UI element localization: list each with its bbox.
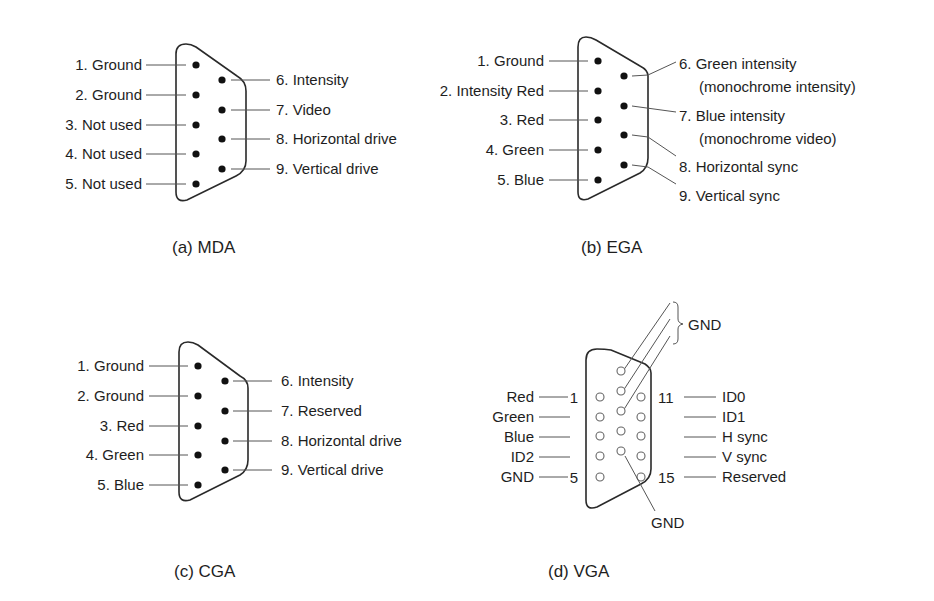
pin-4 (594, 146, 601, 153)
pin-label: 4. Green (486, 141, 544, 158)
pin-3 (192, 121, 199, 128)
pin-6 (221, 377, 228, 384)
pin-label: Blue (504, 428, 534, 445)
db9-shell-ega (578, 37, 648, 200)
pin-label: Reserved (722, 468, 786, 485)
pin-number-1: 1 (570, 389, 578, 406)
pin-label: 5. Blue (97, 476, 144, 493)
panel-mda: 1. Ground 2. Ground 3. Not used 4. Not u… (65, 44, 397, 257)
left-pins (192, 61, 225, 187)
pin-label: 9. Vertical drive (276, 160, 379, 177)
pin-label: 2. Ground (77, 387, 144, 404)
pin-label: 7. Reserved (281, 402, 362, 419)
caption-ega: (b) EGA (581, 238, 643, 257)
pin-9 (221, 466, 228, 473)
gnd-brace (673, 302, 683, 344)
pin-3 (596, 432, 604, 440)
pin-label: 3. Red (100, 417, 144, 434)
pin-label: 2. Intensity Red (440, 82, 544, 99)
pin-label: ID1 (722, 408, 745, 425)
pin-gnd-b (617, 387, 625, 395)
panel-cga: 1. Ground 2. Ground 3. Red 4. Green 5. B… (77, 342, 402, 581)
pin-label: 5. Not used (65, 175, 142, 192)
pin-7 (221, 407, 228, 414)
pin-1 (192, 61, 199, 68)
pin-12 (637, 413, 645, 421)
pin-8 (620, 131, 627, 138)
pin-label: 4. Green (86, 446, 144, 463)
caption-cga: (c) CGA (174, 562, 236, 581)
pin-2 (192, 91, 199, 98)
pin-label: 2. Ground (75, 86, 142, 103)
pin-label: GND (501, 468, 535, 485)
pin-5 (194, 481, 201, 488)
pin-label-note: (monochrome intensity) (699, 78, 856, 95)
pin-2 (594, 87, 601, 94)
caption-vga: (d) VGA (548, 562, 610, 581)
pin-label: 1. Ground (477, 52, 544, 69)
pin-2 (596, 413, 604, 421)
pin-label-note: (monochrome video) (699, 130, 837, 147)
pin-5 (192, 180, 199, 187)
db9-shell-cga (179, 342, 248, 501)
pin-8 (218, 135, 225, 142)
pin-label: Red (506, 388, 534, 405)
pin-9 (620, 161, 627, 168)
pin-8 (221, 437, 228, 444)
pin-label: 6. Intensity (281, 372, 354, 389)
pin-14 (637, 452, 645, 460)
pin-2 (194, 392, 201, 399)
pin-label: 9. Vertical sync (679, 187, 780, 204)
pin-label: ID0 (722, 388, 745, 405)
pin-label: 5. Blue (497, 171, 544, 188)
gnd-bottom-label: GND (651, 514, 685, 531)
pin-gnd-a (617, 367, 625, 375)
pin-label: 3. Red (500, 111, 544, 128)
pin-label: 1. Ground (75, 56, 142, 73)
panel-vga: GND GND 1 5 11 15 (492, 302, 786, 581)
pin-4 (194, 451, 201, 458)
pin-label: 7. Blue intensity (679, 107, 785, 124)
pin-7 (620, 102, 627, 109)
pin-label: 8. Horizontal drive (276, 130, 397, 147)
pin-label: Green (492, 408, 534, 425)
pin-label: 3. Not used (65, 116, 142, 133)
pin-5 (594, 176, 601, 183)
pin-11 (637, 393, 645, 401)
pin-1 (194, 362, 201, 369)
pin-3 (594, 116, 601, 123)
pin-label: H sync (722, 428, 768, 445)
pin-1 (594, 57, 601, 64)
pin-label: 8. Horizontal sync (679, 158, 799, 175)
pin-label: 1. Ground (77, 357, 144, 374)
pin-label: 6. Intensity (276, 71, 349, 88)
pin-13 (637, 432, 645, 440)
pin-6 (620, 72, 627, 79)
pin-1 (596, 393, 604, 401)
gnd-group-label: GND (688, 316, 722, 333)
pin-number-5: 5 (570, 469, 578, 486)
pin-middle-4 (617, 427, 625, 435)
pin-number-15: 15 (658, 469, 675, 486)
pin-middle-5 (617, 447, 625, 455)
pin-number-11: 11 (658, 389, 674, 406)
pin-label: 7. Video (276, 101, 331, 118)
pin-4 (596, 452, 604, 460)
pin-9 (218, 165, 225, 172)
pin-label: 8. Horizontal drive (281, 432, 402, 449)
pin-gnd-c (617, 407, 625, 415)
pin-label: 6. Green intensity (679, 55, 797, 72)
pin-label: 9. Vertical drive (281, 461, 384, 478)
pin-7 (218, 106, 225, 113)
pin-label: ID2 (511, 448, 534, 465)
pin-label: 4. Not used (65, 145, 142, 162)
pin-4 (192, 150, 199, 157)
pin-6 (218, 76, 225, 83)
db9-shell-mda (176, 44, 246, 201)
caption-mda: (a) MDA (172, 238, 236, 257)
pin-label: V sync (722, 448, 768, 465)
panel-ega: 1. Ground 2. Intensity Red 3. Red 4. Gre… (440, 37, 856, 257)
connector-pinout-figure: 1. Ground 2. Ground 3. Not used 4. Not u… (0, 0, 934, 601)
pin-3 (194, 422, 201, 429)
pin-5 (596, 473, 604, 481)
